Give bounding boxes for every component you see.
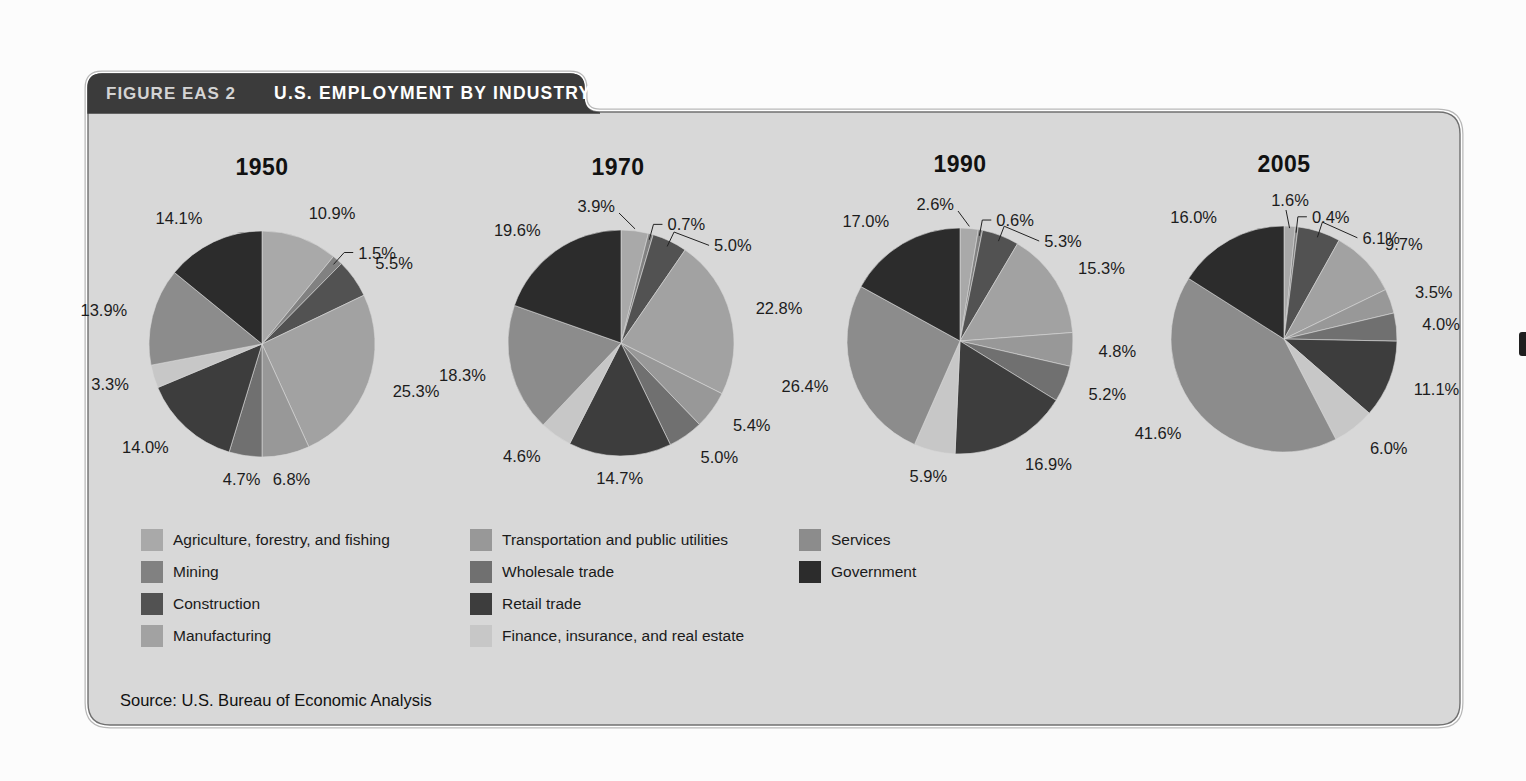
- pie-percent-label: 10.9%: [309, 204, 356, 223]
- legend-label: Retail trade: [502, 595, 581, 613]
- pie-percent-label: 3.5%: [1415, 283, 1453, 302]
- pie-percent-label: 5.0%: [714, 236, 752, 255]
- pie-percent-label: 41.6%: [1135, 423, 1182, 442]
- pie-labels-layer: 10.9%1.5%5.5%25.3%6.8%4.7%14.0%3.3%13.9%…: [0, 0, 1526, 781]
- legend-swatch: [470, 561, 492, 583]
- legend-label: Agriculture, forestry, and fishing: [173, 531, 390, 549]
- pie-title-2005: 2005: [1257, 151, 1310, 178]
- pie-percent-label: 3.3%: [91, 375, 129, 394]
- pie-percent-label: 6.0%: [1370, 439, 1408, 458]
- pie-percent-label: 5.4%: [733, 416, 771, 435]
- pie-percent-label: 4.0%: [1422, 315, 1460, 334]
- pie-percent-label: 11.1%: [1414, 379, 1460, 398]
- legend-swatch: [470, 625, 492, 647]
- legend-swatch: [470, 529, 492, 551]
- legend-label: Mining: [173, 563, 219, 581]
- legend-label: Manufacturing: [173, 627, 271, 645]
- legend-column-2: Transportation and public utilitiesWhole…: [470, 529, 744, 657]
- pie-percent-label: 0.7%: [667, 215, 705, 234]
- pie-percent-label: 4.8%: [1099, 342, 1137, 361]
- legend-label: Government: [831, 563, 916, 581]
- pie-title-1950: 1950: [235, 154, 288, 181]
- pie-percent-label: 19.6%: [494, 220, 541, 239]
- page: { "figure": { "label": "FIGURE EAS 2", "…: [0, 0, 1526, 781]
- pie-percent-label: 1.6%: [1271, 191, 1309, 210]
- pie-percent-label: 16.9%: [1025, 454, 1072, 473]
- pie-percent-label: 0.4%: [1312, 207, 1350, 226]
- pie-percent-label: 5.5%: [375, 254, 413, 273]
- legend-label: Services: [831, 531, 890, 549]
- source-text: Source: U.S. Bureau of Economic Analysis: [120, 691, 432, 710]
- pie-title-1970: 1970: [591, 154, 644, 181]
- legend-swatch: [141, 529, 163, 551]
- legend-swatch: [141, 593, 163, 615]
- legend-item: Finance, insurance, and real estate: [470, 625, 744, 647]
- figure-title: U.S. EMPLOYMENT BY INDUSTRY: [274, 83, 591, 104]
- legend-swatch: [470, 593, 492, 615]
- legend-item: Services: [799, 529, 916, 551]
- legend-item: Construction: [141, 593, 390, 615]
- legend-label: Construction: [173, 595, 260, 613]
- pie-percent-label: 2.6%: [916, 195, 954, 214]
- pie-percent-label: 14.0%: [122, 438, 169, 457]
- legend-item: Agriculture, forestry, and fishing: [141, 529, 390, 551]
- pie-percent-label: 14.7%: [596, 469, 643, 488]
- pie-percent-label: 6.8%: [273, 470, 311, 489]
- figure-number-label: FIGURE EAS 2: [106, 84, 236, 104]
- pie-percent-label: 26.4%: [782, 376, 829, 395]
- legend-item: Wholesale trade: [470, 561, 744, 583]
- pie-percent-label: 5.9%: [910, 467, 948, 486]
- pie-percent-label: 13.9%: [80, 300, 127, 319]
- legend-swatch: [799, 561, 821, 583]
- pie-percent-label: 4.7%: [223, 470, 261, 489]
- pie-percent-label: 3.9%: [577, 197, 615, 216]
- legend-item: Government: [799, 561, 916, 583]
- pie-percent-label: 5.2%: [1089, 384, 1127, 403]
- legend-item: Transportation and public utilities: [470, 529, 744, 551]
- pie-percent-label: 4.6%: [503, 447, 541, 466]
- pie-percent-label: 17.0%: [842, 212, 889, 231]
- legend-column-1: Agriculture, forestry, and fishingMining…: [141, 529, 390, 657]
- legend-item: Manufacturing: [141, 625, 390, 647]
- pie-title-1990: 1990: [933, 151, 986, 178]
- pie-percent-label: 0.6%: [996, 211, 1034, 230]
- legend-item: Mining: [141, 561, 390, 583]
- figure-header: FIGURE EAS 2 U.S. EMPLOYMENT BY INDUSTRY: [106, 74, 591, 113]
- pie-percent-label: 14.1%: [156, 209, 203, 228]
- pie-percent-label: 5.3%: [1044, 232, 1082, 251]
- legend-label: Transportation and public utilities: [502, 531, 728, 549]
- pie-percent-label: 15.3%: [1078, 258, 1125, 277]
- legend-item: Retail trade: [470, 593, 744, 615]
- pie-percent-label: 16.0%: [1170, 208, 1217, 227]
- pie-percent-label: 9.7%: [1385, 234, 1423, 253]
- legend-swatch: [799, 529, 821, 551]
- pie-percent-label: 18.3%: [439, 366, 486, 385]
- pie-percent-label: 25.3%: [393, 382, 440, 401]
- legend-swatch: [141, 625, 163, 647]
- legend-label: Wholesale trade: [502, 563, 614, 581]
- legend-swatch: [141, 561, 163, 583]
- legend-label: Finance, insurance, and real estate: [502, 627, 744, 645]
- pie-percent-label: 22.8%: [756, 299, 803, 318]
- legend-column-3: ServicesGovernment: [799, 529, 916, 593]
- scan-artifact-mark: [1519, 332, 1526, 356]
- pie-percent-label: 5.0%: [701, 447, 739, 466]
